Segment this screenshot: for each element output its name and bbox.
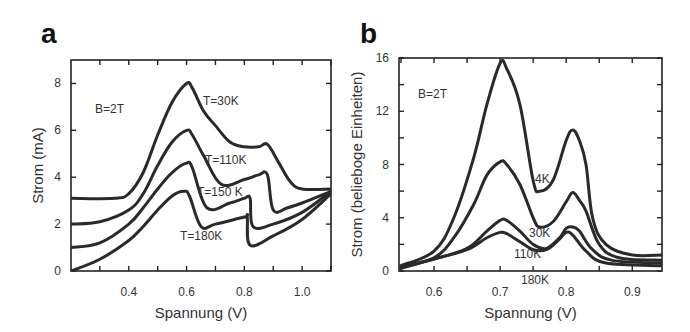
x-tick-label: 0.8 bbox=[236, 285, 253, 299]
y-tick-label: 2 bbox=[54, 217, 61, 231]
series-line-t110k bbox=[71, 130, 331, 224]
y-axis-title: Strom (beliebоge Einheiten) bbox=[348, 72, 365, 258]
x-tick-label: 0.6 bbox=[178, 285, 195, 299]
annotation-label: T=180K bbox=[180, 229, 222, 243]
y-tick-label: 16 bbox=[376, 51, 390, 65]
x-axis-title: Spannung (V) bbox=[484, 304, 577, 321]
x-tick-label: 0.8 bbox=[558, 285, 575, 299]
chart-canvas: 0.40.60.81.002468Spannung (V)Strom (mA)B… bbox=[0, 0, 690, 332]
chart-panel-a: 0.40.60.81.002468Spannung (V)Strom (mA)B… bbox=[29, 60, 331, 321]
chart-panel-b: 0.60.70.80.90481216Spannung (V)Strom (be… bbox=[348, 51, 662, 321]
y-tick-label: 12 bbox=[376, 104, 390, 118]
annotation-label: 110K bbox=[514, 247, 541, 261]
annotation-label: T=30K bbox=[203, 94, 239, 108]
x-tick-label: 1.0 bbox=[294, 285, 311, 299]
annotation-label: B=2T bbox=[95, 102, 125, 116]
y-axis-title: Strom (mA) bbox=[29, 127, 46, 204]
y-tick-label: 0 bbox=[54, 264, 61, 278]
x-axis-title: Spannung (V) bbox=[155, 304, 248, 321]
y-tick-label: 8 bbox=[382, 158, 389, 172]
x-tick-label: 0.6 bbox=[426, 285, 443, 299]
annotation-label: T=110K bbox=[205, 153, 246, 167]
x-tick-label: 0.7 bbox=[492, 285, 509, 299]
annotation-label: 30K bbox=[529, 226, 550, 240]
x-tick-label: 0.9 bbox=[624, 285, 641, 299]
series-line-t30k bbox=[71, 82, 331, 198]
annotation-label: B=2T bbox=[418, 87, 448, 101]
y-tick-label: 4 bbox=[382, 211, 389, 225]
x-tick-label: 0.4 bbox=[120, 285, 137, 299]
annotation-label: 4K bbox=[535, 172, 550, 186]
y-tick-label: 0 bbox=[382, 264, 389, 278]
annotation-label: 180K bbox=[521, 273, 549, 287]
y-tick-label: 4 bbox=[54, 170, 61, 184]
y-tick-label: 6 bbox=[54, 123, 61, 137]
y-tick-label: 8 bbox=[54, 76, 61, 90]
annotation-label: T=150 K bbox=[197, 185, 243, 199]
